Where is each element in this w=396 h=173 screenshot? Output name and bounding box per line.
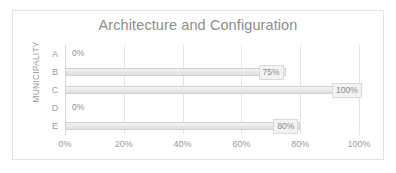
x-tick-label: 80%	[291, 139, 309, 149]
bar-value-label: 0%	[69, 101, 87, 114]
category-label: E	[49, 117, 61, 135]
bar[interactable]	[65, 68, 286, 76]
bar-row: E80%	[65, 117, 359, 135]
bar-value-label: 80%	[273, 119, 298, 134]
category-label: B	[49, 63, 61, 81]
chart-frame: Architecture and Configuration MUNICIPAL…	[12, 10, 384, 160]
x-tick-label: 60%	[232, 139, 250, 149]
bar[interactable]	[65, 122, 300, 130]
bar-row: D0%	[65, 99, 359, 117]
bar-rows: A0%B75%C100%D0%E80%	[65, 45, 359, 135]
y-axis-title: MUNICIPALITY	[31, 32, 41, 112]
x-axis: 0%20%40%60%80%100%	[65, 135, 359, 155]
x-tick-label: 20%	[115, 139, 133, 149]
x-tick-label: 100%	[347, 139, 370, 149]
category-label: A	[49, 45, 61, 63]
bar[interactable]	[65, 86, 359, 94]
category-label: C	[49, 81, 61, 99]
bar-value-label: 75%	[259, 65, 284, 80]
x-tick-label: 40%	[174, 139, 192, 149]
category-label: D	[49, 99, 61, 117]
x-tick-label: 0%	[58, 139, 71, 149]
chart-title: Architecture and Configuration	[13, 17, 383, 33]
bar-row: C100%	[65, 81, 359, 99]
bar-row: A0%	[65, 45, 359, 63]
bar-value-label: 0%	[69, 47, 87, 60]
plot-area: A0%B75%C100%D0%E80%	[65, 45, 359, 135]
bar-value-label: 100%	[332, 83, 362, 98]
bar-row: B75%	[65, 63, 359, 81]
